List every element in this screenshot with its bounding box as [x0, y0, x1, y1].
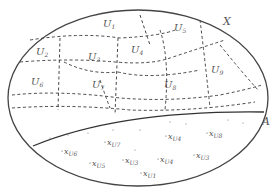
point-x-u3: xU3: [122, 156, 138, 166]
point-x-u7: xU7: [104, 138, 120, 148]
region-label-u8: U8: [164, 79, 176, 91]
cover-diagram: U1 U2 U3 U4 U5 U6 U7 U8 U9 X A xU6 xU7 x…: [0, 0, 273, 192]
svg-text:xU4: xU4: [168, 132, 182, 142]
point-x-u4: xU4: [165, 132, 181, 142]
region-label-u5: U5: [174, 22, 186, 34]
region-label-u4: U4: [131, 44, 143, 56]
point-x-u3b: xU3: [193, 151, 209, 161]
svg-text:xU3: xU3: [125, 156, 139, 166]
svg-text:xU3: xU3: [196, 151, 210, 161]
point-x-u4b: xU4: [157, 155, 173, 165]
point-x-u8: xU8: [206, 129, 222, 139]
svg-text:xU7: xU7: [107, 138, 121, 148]
region-label-u3: U3: [88, 51, 100, 63]
region-label-u1: U1: [103, 18, 115, 30]
point-labels: xU6 xU7 xU5 xU3 xU4 xU8 xU4 xU1 xU3: [49, 119, 243, 179]
svg-text:xU5: xU5: [92, 159, 106, 169]
region-label-u6: U6: [31, 76, 43, 88]
point-x-u1: xU1: [140, 169, 156, 179]
subset-a-boundary: [33, 112, 264, 146]
svg-text:xU8: xU8: [209, 129, 223, 139]
region-label-u2: U2: [36, 46, 48, 58]
svg-text:xU1: xU1: [143, 169, 156, 179]
region-labels: U1 U2 U3 U4 U5 U6 U7 U8 U9: [31, 18, 223, 91]
svg-text:xU4: xU4: [160, 155, 174, 165]
region-label-u7: U7: [92, 79, 104, 91]
subset-a-label: A: [261, 115, 270, 128]
region-label-u9: U9: [211, 64, 223, 76]
point-x-u6: xU6: [61, 147, 77, 157]
partition-lines: [12, 15, 262, 115]
point-x-u5: xU5: [89, 159, 105, 169]
svg-text:xU6: xU6: [64, 147, 78, 157]
set-x-label: X: [222, 15, 232, 28]
